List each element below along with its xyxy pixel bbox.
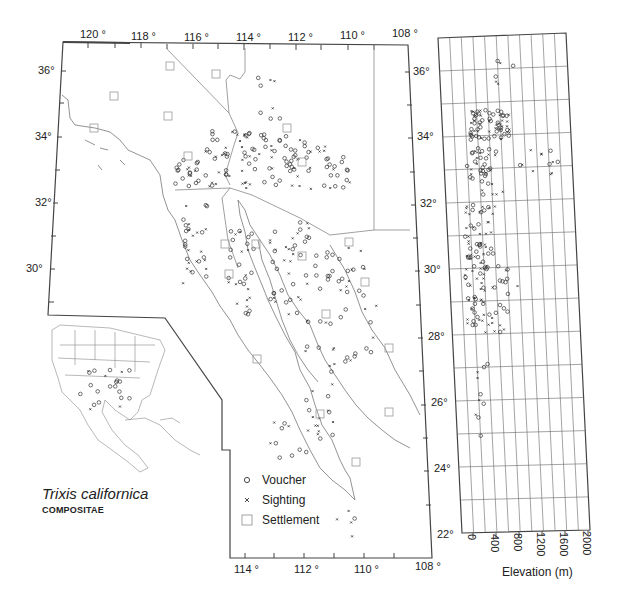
lon-label-114: 114 ° — [236, 31, 261, 43]
legend-item-voucher: Voucher — [240, 470, 319, 490]
bottom-ticks — [245, 553, 394, 558]
inset-points — [79, 368, 132, 410]
square-icon — [240, 514, 254, 526]
legend-label: Settlement — [262, 513, 319, 527]
species-name: Trixis californica — [42, 485, 148, 502]
elev-tick-800: 800 — [512, 533, 524, 551]
cross-icon — [240, 497, 254, 503]
legend-item-sighting: Sighting — [240, 490, 319, 510]
elev-tick-1600: 1600 — [558, 532, 570, 556]
lon-label-120: 120 ° — [80, 28, 106, 40]
legend-label: Voucher — [262, 473, 306, 487]
lat-label-left-36: 36° — [38, 64, 55, 76]
lon-label-116: 116 ° — [184, 31, 209, 43]
lat-label-right-36: 36° — [413, 65, 430, 77]
lat-label-right-26: 26° — [431, 396, 448, 408]
family-name: COMPOSITAE — [42, 505, 104, 515]
coastlines — [62, 95, 420, 500]
legend: Voucher Sighting Settlement — [240, 470, 319, 530]
species-distribution-map: 120 ° 118 ° 116 ° 114 ° 112 ° 110 ° 108 … — [0, 0, 627, 601]
circle-icon — [240, 476, 254, 484]
lat-label-left-34: 34° — [35, 130, 52, 142]
elevation-grid — [440, 33, 589, 532]
political-borders — [166, 48, 410, 268]
lat-label-right-22: 22° — [437, 528, 454, 540]
elev-tick-1200: 1200 — [535, 532, 547, 556]
lon-label-118: 118 ° — [131, 30, 156, 42]
lon-label-bottom-112: 112 ° — [294, 563, 319, 575]
lon-label-bottom-110: 110 ° — [354, 563, 379, 575]
lat-label-left-30: 30° — [26, 262, 43, 274]
lon-label-110: 110 ° — [340, 29, 365, 41]
lat-label-right-32: 32° — [420, 197, 437, 209]
lat-label-right-30: 30° — [424, 263, 441, 275]
elev-tick-2000: 2000 — [581, 531, 593, 555]
lat-label-right-24: 24° — [434, 462, 451, 474]
lat-label-left-32: 32° — [35, 196, 52, 208]
lon-label-112: 112 ° — [288, 31, 313, 43]
lon-label-bottom-114: 114 ° — [234, 563, 259, 575]
lon-label-108: 108 ° — [392, 27, 418, 39]
lon-label-bottom-108: 108 ° — [415, 560, 441, 572]
legend-item-settlement: Settlement — [240, 510, 319, 530]
lat-label-right-28: 28° — [428, 330, 445, 342]
main-map-points — [174, 76, 378, 537]
settlement-markers — [90, 62, 393, 466]
elev-tick-400: 400 — [489, 534, 501, 552]
lat-label-right-34: 34° — [417, 130, 434, 142]
elevation-panel — [438, 33, 590, 533]
elevation-axis-label: Elevation (m) — [502, 565, 573, 579]
elev-tick-0: 0 — [466, 534, 478, 540]
inset-north-america — [52, 325, 200, 472]
legend-label: Sighting — [262, 493, 305, 507]
